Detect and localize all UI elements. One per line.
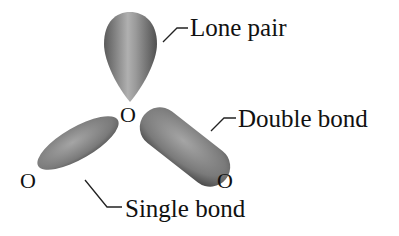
label-double-bond: Double bond bbox=[238, 106, 368, 131]
lone-pair-leader-line bbox=[163, 28, 188, 42]
double-bond-leader-line bbox=[211, 118, 236, 131]
single-bond-lobe bbox=[30, 106, 126, 180]
atom-left-oxygen: O bbox=[20, 170, 36, 192]
single-bond-leader-line bbox=[85, 180, 122, 207]
atom-center-oxygen: O bbox=[120, 104, 136, 126]
atom-right-oxygen: O bbox=[217, 170, 233, 192]
lone-pair-lobe bbox=[104, 12, 157, 102]
label-lone-pair: Lone pair bbox=[190, 15, 286, 40]
label-single-bond: Single bond bbox=[125, 196, 245, 221]
